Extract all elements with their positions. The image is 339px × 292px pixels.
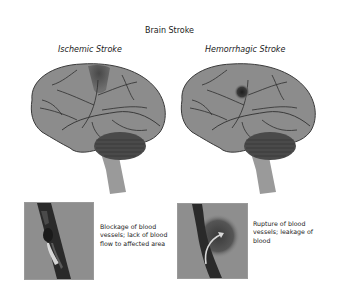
blocked-vessel-inset bbox=[24, 202, 94, 280]
ruptured-vessel-inset bbox=[177, 203, 248, 279]
ischemic-brain-illustration bbox=[22, 60, 172, 200]
hemorrhagic-brain-illustration bbox=[172, 60, 322, 200]
hemorrhagic-description: Rupture of blood vessels; leakage of blo… bbox=[253, 220, 323, 245]
ischemic-description: Blockage of blood vessels; lack of blood… bbox=[100, 223, 170, 248]
diagram-title: Brain Stroke bbox=[0, 26, 339, 35]
blocked-vessel-icon bbox=[25, 203, 93, 279]
ruptured-vessel-icon bbox=[178, 204, 247, 278]
ischemic-heading: Ischemic Stroke bbox=[58, 45, 122, 54]
hemorrhagic-heading: Hemorrhagic Stroke bbox=[205, 45, 285, 54]
